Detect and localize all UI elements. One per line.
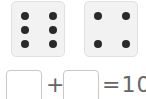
pip-dot <box>21 26 29 34</box>
answer-box-2[interactable] <box>63 70 99 99</box>
die-four <box>84 1 138 57</box>
pip-dot <box>21 12 29 20</box>
die-six <box>11 1 65 57</box>
pip-dot <box>94 12 102 20</box>
pip-dot <box>49 40 57 48</box>
pip-dot <box>122 12 130 20</box>
pip-dot <box>21 40 29 48</box>
equals-ten: =10 <box>102 74 146 96</box>
pip-dot <box>122 40 130 48</box>
pip-dot <box>49 12 57 20</box>
pip-dot <box>49 26 57 34</box>
pip-dot <box>94 40 102 48</box>
plus-sign: + <box>46 74 64 96</box>
answer-box-1[interactable] <box>6 70 42 99</box>
